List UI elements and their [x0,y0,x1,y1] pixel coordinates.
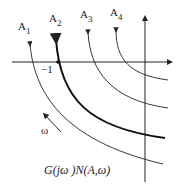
label-a2: A2 [49,12,61,28]
critical-point-label: −1 [41,63,53,75]
curve-a2 [56,39,165,138]
curve-a4 [116,30,168,80]
omega-label: ω [41,124,48,136]
label-a4: A4 [110,6,123,22]
critical-point [56,60,60,64]
label-a3: A3 [80,8,93,24]
caption: G(jω )N(A,ω) [44,163,110,177]
label-a1: A1 [18,20,30,36]
nyquist-diagram: −1 A1 A2 A3 A4 ω G(jω )N(A,ω) [0,0,180,187]
curve-a3 [88,32,168,108]
